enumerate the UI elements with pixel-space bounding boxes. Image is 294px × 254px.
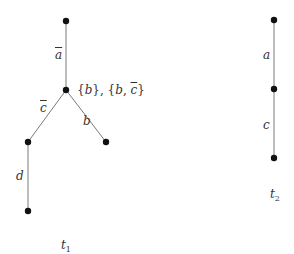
node-t1-branch	[63, 87, 69, 93]
edge-t1-c-bar	[28, 90, 66, 142]
node-t2-root	[271, 17, 277, 23]
node-t1-left	[25, 139, 31, 145]
node-t2-leaf	[271, 155, 277, 161]
edge-label-t2-c: c	[263, 119, 270, 131]
node-label-part: }	[137, 83, 145, 97]
diagram-canvas: a c b d {b}, {b, c} a c t1 t2	[0, 0, 294, 254]
node-t2-mid	[271, 86, 277, 92]
node-t1-leaf	[25, 208, 31, 214]
edge-label-d: d	[16, 170, 24, 182]
tree-name-t1: t1	[61, 239, 71, 254]
node-label-part: {	[77, 83, 85, 97]
node-label-part: }, {	[92, 83, 115, 97]
node-t1-root	[63, 18, 69, 24]
edge-label-t2-a: a	[263, 49, 270, 61]
edge-label-b: b	[83, 115, 91, 127]
tree-name-subscript: 2	[275, 194, 280, 203]
tree-name-t2: t2	[270, 188, 280, 203]
edge-label-c-bar: c	[40, 102, 47, 114]
edge-label-a-bar: a	[55, 49, 62, 61]
node-label-part: b	[115, 83, 123, 97]
node-label-sets: {b}, {b, c}	[77, 84, 145, 96]
tree-graphics	[0, 0, 294, 254]
tree-name-subscript: 1	[66, 245, 71, 254]
node-label-part: ,	[123, 83, 131, 97]
node-t1-right	[103, 139, 109, 145]
